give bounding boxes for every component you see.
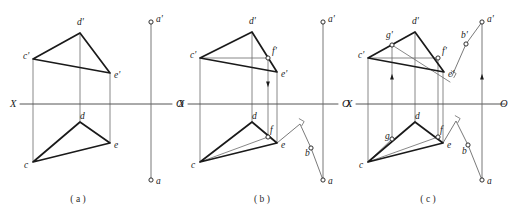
point-marker-a [149,178,153,182]
canvas-background [0,0,514,220]
panel-caption-b: ( b ) [254,194,270,205]
point-label-d-prime: d' [412,16,420,26]
point-label-a: a [487,176,492,186]
panel-caption-a: ( a ) [70,194,85,205]
point-label-a-prime: a' [328,14,336,24]
point-marker-f [436,135,440,139]
descriptive-geometry-figure: XOc'd'e'cdea'a( a )XOc'd'f'e'cdfea'ab( b… [0,0,514,220]
point-label-e-prime: e' [281,69,288,79]
point-label-a: a [328,176,333,186]
point-label-a-prime: a' [487,14,495,24]
point-label-d-prime: d' [249,16,257,26]
point-label-e-prime: e' [114,70,121,80]
point-label-e: e [447,140,451,150]
point-marker-a-prime [480,20,484,24]
point-marker-a [321,178,325,182]
point-label-d: d [415,111,420,121]
axis-label-o: O [500,98,508,109]
point-label-d: d [252,111,257,121]
point-label-a-prime: a' [156,14,164,24]
point-label-c-prime: c' [23,51,30,61]
point-marker-f-prime [436,56,440,60]
point-marker-g-prime [390,43,394,47]
point-label-b-prime: b' [461,30,469,40]
point-label-d-prime: d' [77,17,85,27]
point-label-b: b [305,148,310,158]
panel-caption-c: ( c ) [420,194,435,205]
point-label-g: g [385,131,390,141]
point-marker-a-prime [321,20,325,24]
point-label-c-prime: c' [190,50,197,60]
point-label-e: e [114,140,118,150]
point-label-a: a [156,176,161,186]
axis-label-x: X [345,98,353,109]
point-marker-f-prime [266,56,270,60]
axis-label-x: X [177,98,185,109]
point-label-d: d [80,111,85,121]
point-marker-a-prime [149,20,153,24]
axis-label-x: X [9,98,17,109]
figure-root: XOc'd'e'cdea'a( a )XOc'd'f'e'cdfea'ab( b… [0,0,514,220]
point-label-c-prime: c' [358,50,365,60]
point-marker-b-prime [464,42,468,46]
point-label-g-prime: g' [386,30,394,40]
point-label-e-prime: e' [448,69,455,79]
point-marker-f [266,135,270,139]
point-marker-g [390,137,394,141]
point-marker-a [480,178,484,182]
point-label-b: b [462,146,467,156]
point-label-e: e [281,140,285,150]
